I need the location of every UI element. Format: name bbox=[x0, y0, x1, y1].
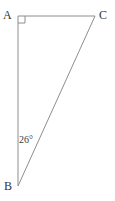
triangle-drawing bbox=[0, 0, 115, 201]
side-bc bbox=[18, 16, 95, 186]
vertex-label-b: B bbox=[4, 180, 12, 192]
angle-label-b: 26° bbox=[19, 135, 33, 145]
vertex-label-a: A bbox=[3, 9, 12, 21]
geometry-figure: A C B 26° bbox=[0, 0, 115, 201]
right-angle-icon bbox=[18, 16, 25, 23]
vertex-label-c: C bbox=[99, 9, 107, 21]
